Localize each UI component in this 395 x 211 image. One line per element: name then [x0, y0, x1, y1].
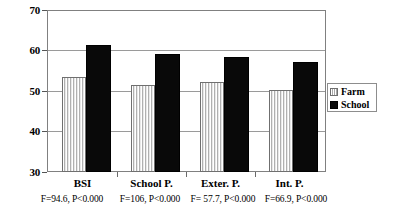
x-axis-category-label: BSI — [48, 177, 117, 189]
bars-layer — [48, 11, 325, 172]
legend-label: School — [341, 100, 369, 110]
y-axis-tick-label: 70 — [16, 5, 40, 16]
bar-farm-school-p — [131, 85, 155, 172]
bar-school-exter-p — [224, 57, 249, 172]
bar-farm-exter-p — [200, 82, 224, 172]
bar-school-bsi — [86, 45, 111, 172]
legend-label: Farm — [341, 87, 365, 97]
bar-farm-bsi — [62, 77, 86, 172]
y-axis-tick-label: 40 — [16, 126, 40, 137]
x-axis-category-label: Int. P. — [255, 177, 324, 189]
bar-school-school-p — [155, 54, 180, 172]
bar-chart: 70 60 50 40 30 BSI School P. Exter. P. I… — [0, 0, 395, 211]
legend-item-farm: Farm — [330, 86, 376, 98]
farm-swatch-icon — [330, 88, 338, 96]
school-swatch-icon — [330, 101, 338, 109]
y-axis-tick-mark — [42, 172, 47, 173]
y-axis-tick-label: 60 — [16, 45, 40, 56]
y-axis-tick-label: 50 — [16, 86, 40, 97]
legend-item-school: School — [330, 99, 376, 111]
stat-annotation: F=66.9, P<0.000 — [250, 194, 342, 204]
bar-farm-int-p — [269, 90, 293, 172]
x-axis-category-label: School P. — [117, 177, 186, 189]
y-axis-tick-label: 30 — [16, 167, 40, 178]
x-axis-category-label: Exter. P. — [186, 177, 255, 189]
bar-school-int-p — [293, 62, 318, 172]
y-axis-labels: 70 60 50 40 30 — [0, 0, 40, 211]
chart-legend: Farm School — [327, 83, 377, 112]
